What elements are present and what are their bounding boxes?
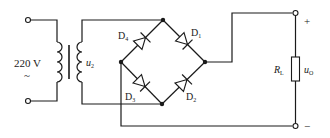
secondary-wire-bottom bbox=[82, 82, 162, 104]
output-plus-sign: + bbox=[304, 15, 310, 27]
input-terminal-bottom bbox=[26, 99, 31, 104]
output-wire-negative bbox=[121, 62, 293, 126]
output-terminal-negative bbox=[293, 124, 298, 129]
primary-wire-bottom bbox=[31, 82, 58, 101]
output-wire-positive bbox=[205, 13, 293, 62]
primary-wire-top bbox=[31, 20, 58, 42]
output-minus-sign: − bbox=[304, 120, 310, 132]
load-resistor bbox=[292, 57, 300, 81]
node-bottom bbox=[160, 102, 164, 106]
source-voltage-label: 220 V bbox=[14, 57, 41, 69]
load-resistor-label: RL bbox=[273, 64, 284, 76]
diode-d3-label: D3 bbox=[125, 91, 135, 103]
bridge-rectifier-diagram: 220 V ~ u2 D4 D1 D3 D2 RL uO + − bbox=[0, 0, 330, 138]
input-terminal-top bbox=[26, 18, 31, 23]
node-top bbox=[161, 18, 165, 22]
output-voltage-label: uO bbox=[304, 64, 314, 76]
diode-d2-label: D2 bbox=[186, 91, 196, 103]
secondary-coil bbox=[77, 42, 82, 82]
diode-d1-label: D1 bbox=[191, 27, 201, 39]
ac-symbol: ~ bbox=[24, 69, 30, 81]
secondary-voltage-label: u2 bbox=[86, 57, 94, 69]
diode-d4-label: D4 bbox=[118, 30, 128, 42]
primary-coil bbox=[57, 42, 62, 82]
output-terminal-positive bbox=[293, 11, 298, 16]
